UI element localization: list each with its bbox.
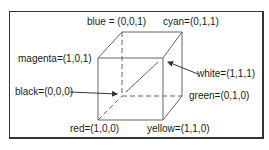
label-magenta: magenta=(1,0,1)	[18, 53, 92, 65]
arrow-black	[70, 92, 117, 94]
edge-magenta-blue	[98, 32, 122, 58]
arrow-white	[168, 62, 198, 74]
label-black: black=(0,0,0)	[15, 86, 73, 98]
edge-white-cyan	[163, 32, 182, 58]
label-cyan: cyan=(0,1,1)	[163, 16, 219, 28]
cube-front-face	[98, 58, 163, 120]
label-white: white=(1,1,1)	[197, 68, 255, 80]
edge-yellow-green	[163, 96, 182, 120]
edge-red-black	[98, 96, 122, 120]
label-blue: blue = (0,0,1)	[87, 16, 146, 28]
label-red: red=(1,0,0)	[70, 123, 119, 135]
label-green: green=(0,1,0)	[189, 90, 249, 102]
label-yellow: yellow=(1,1,0)	[147, 123, 210, 135]
gray-diagonal	[126, 62, 158, 92]
